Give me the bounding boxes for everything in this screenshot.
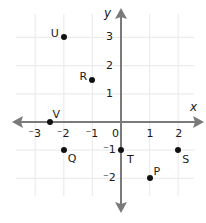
point-label-v: V: [53, 109, 61, 120]
x-tick-label: ⁻3: [28, 128, 41, 139]
x-tick-label: ⁻2: [57, 128, 70, 139]
x-tick-label: ⁻1: [85, 128, 98, 139]
grid-lines: [16, 14, 194, 196]
data-point-q: [61, 147, 67, 153]
y-tick-label: ⁻2: [103, 172, 116, 183]
x-tick-label: 0: [112, 128, 119, 139]
y-tick-label: 2: [106, 60, 113, 71]
point-label-u: U: [51, 28, 59, 39]
y-tick-label: 1: [106, 88, 113, 99]
point-label-t: T: [127, 154, 134, 165]
point-label-s: S: [182, 154, 189, 165]
point-label-r: R: [79, 71, 87, 82]
x-axis-label: x: [190, 101, 197, 113]
x-tick-label: 1: [147, 128, 154, 139]
point-label-p: P: [154, 166, 161, 177]
y-tick-label: ⁻1: [103, 144, 116, 155]
y-tick-label: 3: [106, 31, 113, 42]
point-label-q: Q: [68, 153, 77, 164]
coordinate-plane: [0, 0, 206, 223]
y-axis-label: y: [104, 7, 111, 19]
x-tick-label: 2: [175, 128, 182, 139]
